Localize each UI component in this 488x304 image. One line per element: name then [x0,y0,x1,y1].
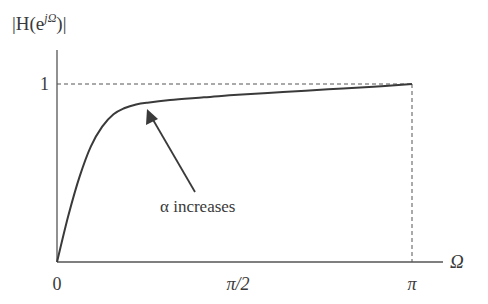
x-tick-pi: π [407,274,417,294]
magnitude-curve [57,84,412,262]
annotation-text: α increases [160,197,235,216]
annotation-arrow-shaft [152,118,195,192]
arrowhead-icon [146,109,158,125]
y-axis-label: |H(ejΩ)| [12,11,66,35]
chart: |H(ejΩ)| α increases 1 0 π/2 π Ω [0,0,488,304]
x-axis-label: Ω [450,251,464,272]
y-tick-1: 1 [40,74,49,94]
x-tick-0: 0 [53,274,62,294]
x-tick-pi-half: π/2 [226,274,249,294]
